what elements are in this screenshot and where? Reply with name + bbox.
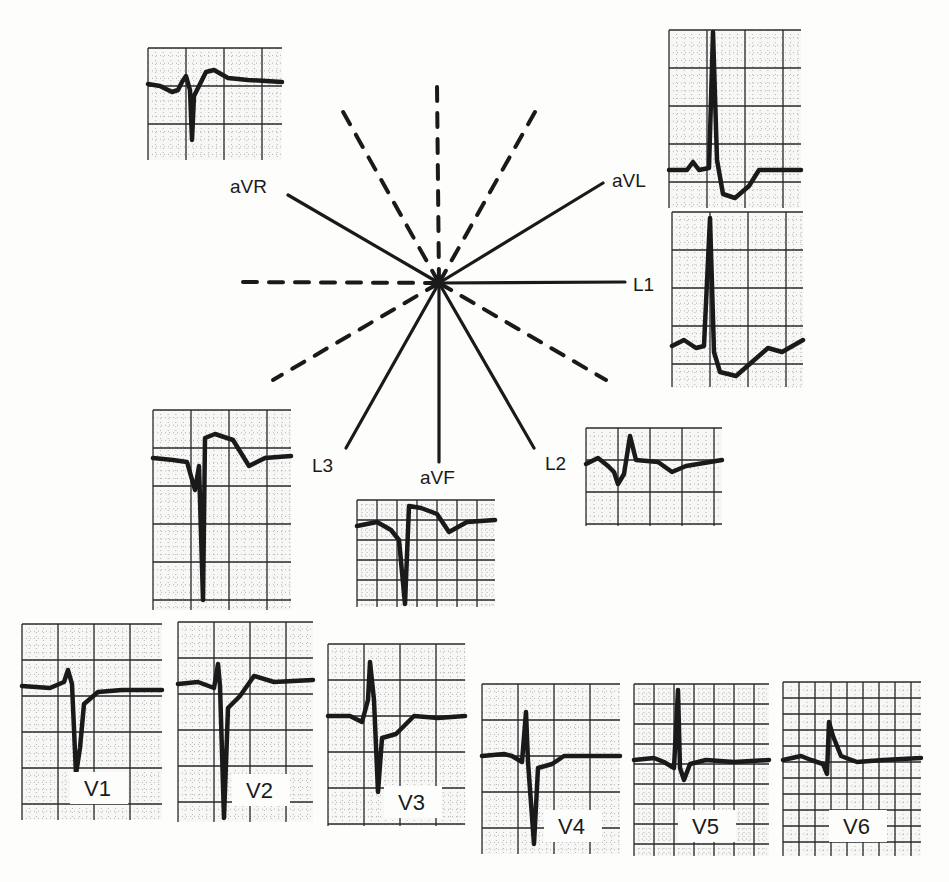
axis-label-l2: L2 bbox=[545, 453, 566, 474]
ecg-strip-v6: V6 bbox=[783, 682, 921, 856]
axis-label-avr: aVR bbox=[230, 176, 267, 197]
ecg-strip-avf bbox=[357, 500, 495, 607]
dashed-negative-axis bbox=[273, 283, 439, 380]
ecg-strips: V1V2V3V4V5V6 bbox=[22, 30, 921, 856]
axis-label-l3: L3 bbox=[312, 455, 333, 476]
ecg-strip-v3: V3 bbox=[328, 644, 465, 826]
ecg-strip-l3 bbox=[153, 410, 291, 610]
ecg-strip-v1: V1 bbox=[22, 624, 162, 820]
ecg-hexaxial-diagram: V1V2V3V4V5V6 L1aVLaVRL2aVFL3 bbox=[0, 0, 949, 882]
axis-label-avl: aVL bbox=[612, 170, 646, 191]
grid-paper bbox=[357, 500, 495, 607]
grid-paper bbox=[672, 212, 803, 387]
hexaxial-reference-system bbox=[240, 85, 625, 462]
axis-label-avf: aVF bbox=[420, 467, 455, 488]
grid-paper bbox=[669, 30, 801, 208]
strip-label-v6: V6 bbox=[843, 814, 870, 839]
ecg-strip-l1 bbox=[672, 212, 803, 387]
strip-label-v1: V1 bbox=[84, 776, 111, 801]
axis-avr bbox=[288, 195, 439, 283]
ecg-strip-avr bbox=[148, 48, 282, 160]
ecg-strip-avl bbox=[669, 30, 801, 208]
grid-paper bbox=[586, 428, 722, 526]
axis-l1 bbox=[439, 282, 625, 283]
axis-l2 bbox=[439, 283, 534, 448]
ecg-strip-v5: V5 bbox=[634, 684, 769, 856]
dashed-negative-axis bbox=[240, 282, 439, 283]
ecg-strip-l2 bbox=[586, 428, 722, 526]
axis-label-l1: L1 bbox=[633, 274, 654, 295]
ecg-strip-v2: V2 bbox=[178, 622, 313, 822]
axis-origin bbox=[434, 278, 444, 288]
ecg-strip-v4: V4 bbox=[482, 684, 620, 854]
grid-paper bbox=[153, 410, 291, 610]
strip-label-v5: V5 bbox=[692, 814, 719, 839]
dashed-negative-axis bbox=[439, 112, 535, 283]
dashed-negative-axis bbox=[342, 110, 439, 283]
strip-label-v2: V2 bbox=[246, 778, 273, 803]
axis-avl bbox=[439, 183, 603, 283]
axis-l3 bbox=[346, 283, 439, 448]
strip-label-v3: V3 bbox=[398, 790, 425, 815]
diagram-canvas: V1V2V3V4V5V6 L1aVLaVRL2aVFL3 bbox=[0, 0, 949, 882]
dashed-negative-axis bbox=[439, 283, 606, 380]
dashed-negative-axis bbox=[437, 85, 439, 283]
strip-label-v4: V4 bbox=[558, 814, 585, 839]
